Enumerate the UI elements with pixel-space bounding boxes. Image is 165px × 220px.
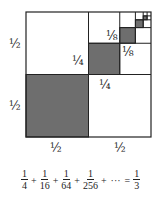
shaded-square-256th xyxy=(135,20,143,28)
plus-sign: + xyxy=(53,175,59,186)
label-eighth-horizontal: ⅛ xyxy=(122,46,134,58)
plus-sign: + xyxy=(74,175,80,186)
shaded-square-1024th xyxy=(143,16,147,20)
equals-sign: = xyxy=(125,175,131,186)
label-bottom-right-half: ½ xyxy=(114,142,126,154)
label-left-top-half: ½ xyxy=(9,38,21,50)
square-dissection-figure xyxy=(0,0,165,145)
shaded-square-64th xyxy=(120,28,136,44)
result: 1 3 xyxy=(133,168,140,192)
shaded-square-sixteenth xyxy=(89,43,120,74)
plus-sign: + xyxy=(101,175,107,186)
label-eighth-vertical: ⅛ xyxy=(106,30,118,42)
label-quarter-horizontal: ¼ xyxy=(99,79,111,91)
label-left-bottom-half: ½ xyxy=(9,100,21,112)
label-quarter-vertical: ¼ xyxy=(72,55,84,67)
plus-sign: + xyxy=(31,175,37,186)
term-1: 1 4 xyxy=(21,168,28,192)
term-3: 1 64 xyxy=(61,168,71,192)
series-equation: 1 4 + 1 16 + 1 64 + 1 256 + ··· = 1 3 xyxy=(20,168,141,192)
label-bottom-left-half: ½ xyxy=(50,142,62,154)
shaded-square-quarter xyxy=(26,75,89,138)
term-4: 1 256 xyxy=(83,168,98,192)
term-2: 1 16 xyxy=(40,168,50,192)
ellipsis: ··· xyxy=(111,175,121,186)
